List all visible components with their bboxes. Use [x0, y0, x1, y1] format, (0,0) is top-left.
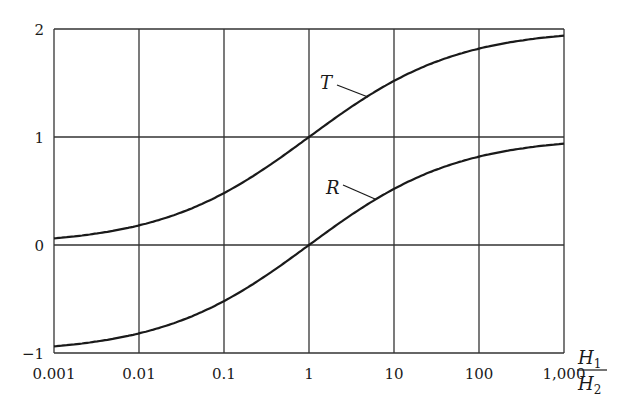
x-tick-label: 0.001 [33, 365, 76, 383]
y-axis-tick-labels: −1012 [22, 21, 44, 363]
y-tick-label: 1 [34, 129, 44, 147]
x-tick-label: 0.1 [212, 365, 236, 383]
x-tick-label: 100 [465, 365, 494, 383]
x-axis-tick-labels: 0.0010.010.11101001,000 [33, 365, 586, 383]
label-r: R [325, 177, 340, 198]
label-r-leader [343, 185, 375, 199]
chart: 0.0010.010.11101001,000 −1012 TR H1 H2 [0, 0, 626, 401]
label-t-leader [337, 85, 368, 97]
x-tick-label: 10 [384, 365, 403, 383]
x-label-numerator: H1 [577, 347, 601, 371]
y-tick-label: 0 [34, 237, 44, 255]
grid [54, 29, 564, 353]
x-tick-label: 1 [304, 365, 314, 383]
label-t: T [320, 72, 334, 93]
curve-labels: TR [320, 72, 375, 199]
y-tick-label: 2 [34, 21, 44, 39]
x-label-denominator: H2 [577, 373, 601, 397]
y-tick-label: −1 [22, 345, 44, 363]
x-tick-label: 0.01 [122, 365, 155, 383]
